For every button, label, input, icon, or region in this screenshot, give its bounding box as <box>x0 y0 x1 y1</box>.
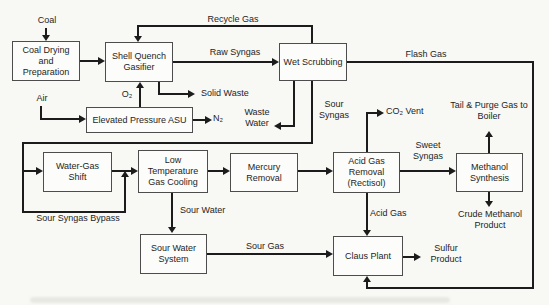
stream-label-recycle-gas: Recycle Gas <box>203 14 263 25</box>
edge-raw-syngas-line <box>173 61 272 63</box>
stream-label-waste-water: Waste Water <box>238 107 276 129</box>
node-acid-gas-removal: Acid Gas Removal (Rectisol) <box>333 152 400 193</box>
edge-sour-gas-line <box>207 253 326 255</box>
edge-wgs-ltgc-line <box>112 170 131 172</box>
edge-crude-methanol-arrowhead <box>485 201 493 207</box>
edge-acid-gas-arrowhead <box>363 230 371 236</box>
edge-acid-gas-line <box>366 193 368 230</box>
node-water-gas-shift: Water-Gas Shift <box>43 152 112 192</box>
edge-flash-gas-line <box>367 287 534 289</box>
node-sour-water-system: Sour Water System <box>140 234 207 274</box>
edge-sour-gas-arrowhead <box>326 250 333 258</box>
edge-mercury-agr-arrowhead <box>326 167 333 175</box>
node-methanol-synthesis: Methanol Synthesis <box>456 153 523 192</box>
stream-label-sour-gas: Sour Gas <box>242 241 288 252</box>
edge-sulfur-product-arrowhead <box>414 253 421 261</box>
edge-co2-vent-line <box>366 112 377 114</box>
edge-waste-water-arrowhead <box>274 122 281 130</box>
edge-tail-purge-line <box>488 137 490 153</box>
edge-n2-line <box>193 119 205 121</box>
stream-label-co2-vent: CO₂ Vent <box>386 106 432 117</box>
process-flow-diagram: Coal Drying and Preparation Shell Quench… <box>0 0 549 305</box>
edge-o2-arrowhead <box>136 82 144 88</box>
edge-n2-arrowhead <box>205 116 212 124</box>
edge-sour-water-line <box>171 193 173 227</box>
edge-sour-water-arrowhead <box>168 227 176 233</box>
stream-label-crude-methanol-product: Crude Methanol Product <box>450 209 530 231</box>
node-low-temperature-gas-cooling: Low Temperature Gas Cooling <box>138 150 208 193</box>
stream-label-sweet-syngas: Sweet Syngas <box>406 140 450 162</box>
scan-smudge <box>30 297 450 303</box>
stream-label-air: Air <box>31 93 53 104</box>
node-elevated-pressure-asu: Elevated Pressure ASU <box>86 107 193 133</box>
node-mercury-removal: Mercury Removal <box>230 153 298 192</box>
edge-o2-line <box>139 88 141 107</box>
stream-label-coal: Coal <box>33 15 61 26</box>
edge-solid-waste-line <box>158 93 188 95</box>
edge-solid-waste-arrowhead <box>188 90 195 98</box>
stream-label-n2: N₂ <box>213 113 233 124</box>
edge-coaldrying-gasifier-arrowhead <box>98 57 105 65</box>
edge-flash-gas-arrowhead <box>363 276 371 282</box>
edge-recycle-gas-line <box>137 25 139 36</box>
edge-crude-methanol-line <box>488 192 490 201</box>
edge-ltgc-mercury-line <box>208 170 223 172</box>
stream-label-raw-syngas: Raw Syngas <box>205 47 265 58</box>
edge-sulfur-product-line <box>403 256 414 258</box>
edge-air-line <box>40 118 79 120</box>
edge-sweet-syngas-arrowhead <box>449 167 456 175</box>
edge-raw-syngas-arrowhead <box>272 58 279 66</box>
stream-label-sour-syngas: Sour Syngas <box>313 99 355 121</box>
edge-co2-vent-arrowhead <box>377 109 384 117</box>
edge-co2-vent-line <box>366 113 368 152</box>
edge-sweet-syngas-line <box>400 170 449 172</box>
stream-label-sour-water: Sour Water <box>180 205 232 216</box>
stream-label-o2: O₂ <box>117 89 137 100</box>
edge-recycle-gas-line <box>311 25 313 43</box>
node-claus-plant: Claus Plant <box>333 236 403 276</box>
edge-sour-syngas-bypass-line <box>22 211 126 213</box>
edge-flash-gas-line <box>532 61 534 289</box>
node-wet-scrubbing: Wet Scrubbing <box>279 43 347 81</box>
edge-mercury-agr-line <box>298 170 326 172</box>
stream-label-sour-syngas-bypass: Sour Syngas Bypass <box>30 213 126 224</box>
node-coal-drying: Coal Drying and Preparation <box>12 41 80 81</box>
edge-sour-syngas-line <box>311 81 313 144</box>
edge-coal-arrowhead <box>42 35 50 41</box>
edge-sour-syngas-line <box>22 170 36 172</box>
stream-label-flash-gas: Flash Gas <box>401 49 451 60</box>
edge-tail-purge-arrowhead <box>485 131 493 137</box>
stream-label-solid-waste: Solid Waste <box>201 88 259 99</box>
edge-recycle-gas-arrowhead <box>134 36 142 42</box>
edge-flash-gas-line <box>366 282 368 289</box>
edge-ltgc-mercury-arrowhead <box>223 167 230 175</box>
edge-sour-syngas-bypass-line <box>124 177 126 213</box>
stream-label-tail-purge-gas: Tail & Purge Gas to Boiler <box>447 100 531 122</box>
edge-waste-water-line <box>281 125 294 127</box>
edge-flash-gas-line <box>347 61 534 63</box>
edge-recycle-gas-line <box>137 25 313 27</box>
edge-sour-syngas-line <box>22 142 313 144</box>
stream-label-acid-gas: Acid Gas <box>370 208 414 219</box>
node-shell-quench-gasifier: Shell Quench Gasifier <box>105 42 173 82</box>
edge-air-arrowhead <box>79 115 86 123</box>
edge-wgs-ltgc-arrowhead <box>131 167 138 175</box>
edge-waste-water-line <box>293 81 295 127</box>
edge-sour-syngas-arrowhead <box>36 167 43 175</box>
edge-coaldrying-gasifier-line <box>80 60 98 62</box>
stream-label-sulfur-product: Sulfur Product <box>423 243 469 265</box>
edge-sour-syngas-line <box>22 142 24 213</box>
